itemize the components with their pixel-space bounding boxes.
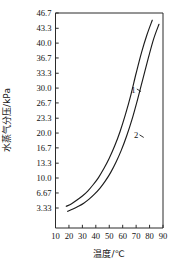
x-tick-label: 50 — [105, 231, 114, 241]
water-vapor-pressure-chart: 3.336.6710.013.316.720.023.326.730.033.3… — [0, 0, 173, 263]
x-tick-label: 10 — [51, 231, 60, 241]
x-axis-title: 温度/℃ — [93, 248, 124, 259]
x-tick-label: 60 — [118, 231, 127, 241]
y-tick-label: 10.0 — [36, 173, 51, 183]
y-tick-label: 13.3 — [36, 158, 51, 168]
y-tick-label: 30.0 — [36, 83, 51, 93]
y-tick-label: 33.3 — [36, 68, 51, 78]
chart-figure: 3.336.6710.013.316.720.023.326.730.033.3… — [0, 0, 173, 263]
y-tick-label: 20.0 — [36, 128, 51, 138]
y-tick-label: 36.7 — [36, 53, 52, 63]
y-tick-label: 26.7 — [36, 98, 52, 108]
y-tick-label: 3.33 — [36, 203, 51, 213]
x-tick-label: 30 — [78, 231, 87, 241]
y-tick-label: 46.7 — [36, 8, 52, 18]
x-axis-tick-labels: 102030405060708090 — [51, 231, 167, 241]
chart-background — [0, 0, 173, 263]
x-tick-label: 70 — [132, 231, 141, 241]
y-tick-label: 6.67 — [36, 188, 52, 198]
y-tick-label: 43.3 — [36, 23, 51, 33]
x-tick-label: 80 — [145, 231, 154, 241]
curve-tag-1: 1 — [131, 85, 135, 95]
y-tick-label: 16.7 — [36, 143, 52, 153]
curve-tag-2: 2 — [134, 130, 138, 140]
y-tick-label: 23.3 — [36, 113, 51, 123]
x-tick-label: 40 — [92, 231, 101, 241]
x-tick-label: 90 — [159, 231, 168, 241]
y-tick-label: 40.0 — [36, 38, 51, 48]
y-axis-title: 水蒸气分压/kPa — [1, 88, 12, 152]
x-tick-label: 20 — [65, 231, 74, 241]
